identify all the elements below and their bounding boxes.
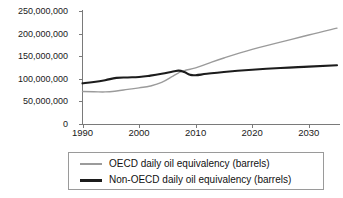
legend-label-non-oecd: Non-OECD daily oil equivalency (barrels) [109, 174, 291, 186]
y-tick-label: 250,000,000 [18, 7, 68, 16]
y-tick-label: 50,000,000 [23, 97, 68, 106]
y-tick-label: 200,000,000 [18, 29, 68, 38]
y-tick-label: 100,000,000 [18, 74, 68, 83]
series-line-non-oecd [83, 65, 338, 83]
oecd-line-swatch-icon [80, 163, 102, 165]
y-axis-ticks [79, 12, 83, 125]
y-axis-tick-labels: 050,000,000100,000,000150,000,000200,000… [0, 0, 72, 145]
x-tick-label: 1990 [72, 127, 93, 138]
x-tick-label: 2000 [128, 127, 149, 138]
x-axis-tick-labels: 19902000201020202030 [0, 127, 343, 143]
series-line-oecd [83, 28, 338, 92]
chart-legend: OECD daily oil equivalency (barrels) Non… [68, 152, 324, 190]
x-tick-label: 2010 [185, 127, 206, 138]
x-tick-label: 2030 [298, 127, 319, 138]
y-tick-label: 150,000,000 [18, 52, 68, 61]
legend-entry-oecd: OECD daily oil equivalency (barrels) [69, 156, 323, 172]
legend-label-oecd: OECD daily oil equivalency (barrels) [109, 158, 270, 170]
chart-figure: 050,000,000100,000,000150,000,000200,000… [0, 0, 343, 198]
legend-entry-non-oecd: Non-OECD daily oil equivalency (barrels) [69, 172, 323, 188]
non-oecd-line-swatch-icon [80, 179, 102, 182]
x-tick-label: 2020 [242, 127, 263, 138]
